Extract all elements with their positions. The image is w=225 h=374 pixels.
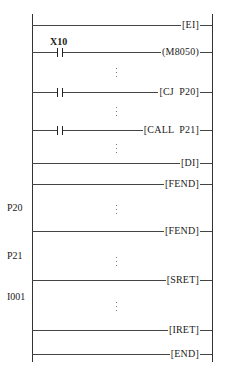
- instruction-fend: [FEND]: [164, 225, 200, 237]
- instruction-di: [DI]: [180, 157, 200, 169]
- interrupt-label-i001: I001: [7, 291, 25, 303]
- instruction-end: [END]: [170, 348, 200, 360]
- instruction-cj: [CJ P20]: [158, 86, 200, 98]
- rung-iret: [IRET]: [32, 325, 212, 337]
- rung-fend-main: [FEND]: [32, 179, 212, 191]
- instruction-call: [CALL P21]: [143, 124, 200, 136]
- right-power-rail: [212, 14, 213, 362]
- rung-cj: [CJ P20]: [32, 87, 212, 99]
- instruction-ei: [EI]: [181, 19, 200, 31]
- rung-end: [END]: [32, 349, 212, 361]
- rung-fend-p20: [FEND]: [32, 226, 212, 238]
- pointer-label-p20: P20: [7, 202, 23, 214]
- instruction-sret: [SRET]: [166, 274, 200, 286]
- rung-di: [DI]: [32, 158, 212, 170]
- ellipsis-icon: [116, 205, 118, 217]
- rung-m8050: (M8050): [32, 47, 212, 59]
- instruction-m8050: (M8050): [161, 46, 200, 58]
- rung-ei: [EI]: [32, 20, 212, 32]
- ellipsis-icon: [116, 144, 118, 156]
- ellipsis-icon: [116, 68, 118, 80]
- rung-sret: [SRET]: [32, 275, 212, 287]
- rung-call: [CALL P21]: [32, 125, 212, 137]
- instruction-iret: [IRET]: [168, 324, 200, 336]
- instruction-fend: [FEND]: [164, 178, 200, 190]
- normally-open-contact-icon: [57, 87, 63, 98]
- ellipsis-icon: [116, 302, 118, 314]
- ellipsis-icon: [116, 257, 118, 269]
- pointer-label-p21: P21: [7, 250, 23, 262]
- normally-open-contact-icon: [57, 47, 63, 58]
- contact-label-x10: X10: [50, 37, 67, 47]
- ellipsis-icon: [116, 107, 118, 119]
- normally-open-contact-icon: [57, 125, 63, 136]
